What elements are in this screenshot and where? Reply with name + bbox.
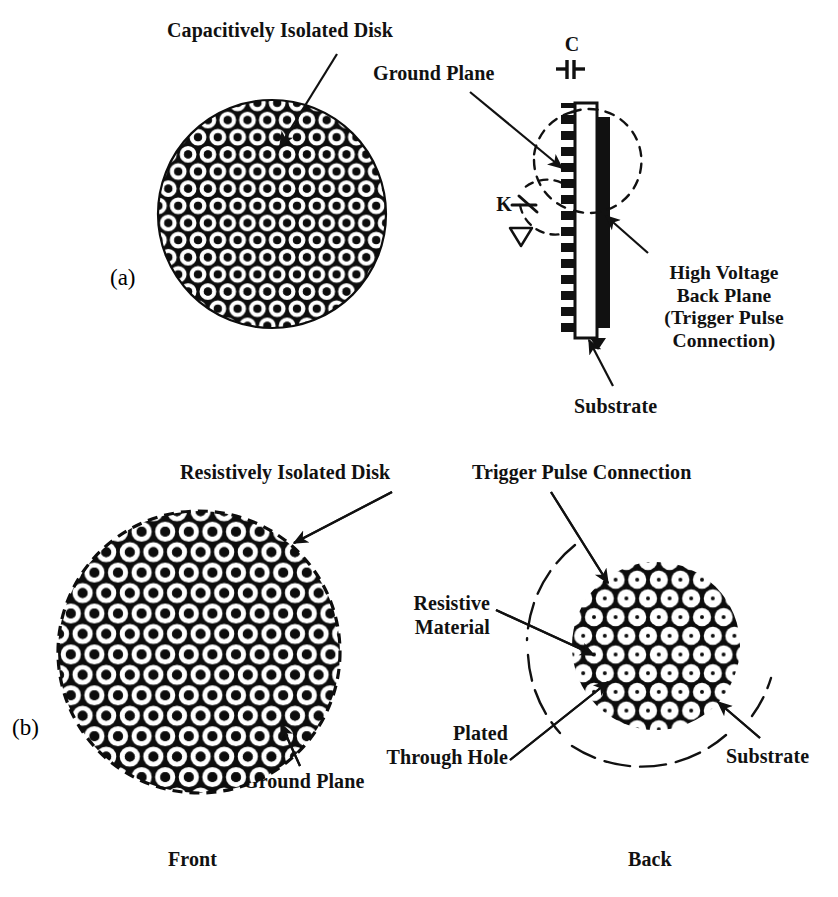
label-substrate-a: Substrate [574,396,657,418]
leader-trigger-pulse-connection [551,492,608,583]
label-trigger-pulse-connection: Trigger Pulse Connection [472,462,691,484]
label-switch-symbol-k: K [494,194,514,216]
label-capacitively-isolated-disk: Capacitively Isolated Disk [167,20,393,42]
label-high-voltage-back-plane: High Voltage Back Plane (Trigger Pulse C… [626,262,822,352]
panel-tag-b: (b) [12,715,39,741]
ground-arrow-glyph [510,228,532,246]
cross-section-assembly [280,54,648,386]
label-ground-plane-a: Ground Plane [373,63,494,85]
leader-plated-through-hole [510,682,608,760]
caption-front: Front [168,849,217,871]
label-capacitor-symbol-c: C [560,34,584,56]
leader-resistive-material [496,610,594,655]
high-voltage-back-plane-electrode [597,117,610,328]
substrate-slab [575,103,597,338]
ground-plane-electrode [561,103,575,332]
disk-capacitively-isolated-front [158,100,386,328]
back-disk-annotation-arcs [527,545,771,767]
label-resistive-material: Resistive Material [368,592,490,639]
disk-resistively-isolated-back [572,562,740,730]
figure-canvas: (a) (b) Capacitively Isolated Disk Groun… [0,0,838,897]
resistive-boundary-ring [58,511,340,793]
label-ground-plane-b: Ground Plane [243,771,364,793]
leader-substrate-b [718,702,760,738]
leader-high-voltage-back-plane [606,216,648,253]
switch-loop [520,180,562,235]
label-resistively-isolated-disk: Resistively Isolated Disk [180,462,390,484]
caption-back: Back [628,849,672,871]
leader-substrate-a [589,340,613,386]
label-substrate-b: Substrate [726,746,809,768]
leader-resistively-isolated-disk [294,492,392,543]
panel-tag-a: (a) [110,265,136,291]
switch-glyph [512,196,537,212]
disk-resistively-isolated-front [58,511,340,793]
leader-ground-plane-a [470,92,562,168]
capacitor-glyph [556,60,585,79]
leader-capacitively-isolated-disk [280,54,337,146]
leader-ground-plane-b [281,724,300,766]
label-plated-through-hole: Plated Through Hole [328,722,508,769]
capacitance-loop [572,109,641,213]
